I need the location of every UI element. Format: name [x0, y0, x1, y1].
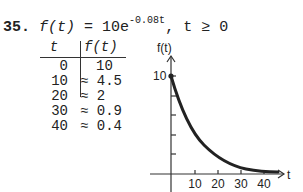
decay-chart: f(t) t 10 10 20 30 40	[0, 0, 303, 192]
x-tick-label-40: 40	[257, 177, 271, 191]
x-tick-label-30: 30	[234, 177, 248, 191]
y-axis-label: f(t)	[157, 41, 172, 55]
y-tick-label-10: 10	[153, 69, 167, 83]
x-tick-label-20: 20	[211, 177, 225, 191]
decay-curve	[171, 76, 278, 172]
x-tick-label-10: 10	[188, 177, 202, 191]
x-axis-label: t	[287, 168, 291, 182]
start-point-marker	[168, 73, 173, 78]
